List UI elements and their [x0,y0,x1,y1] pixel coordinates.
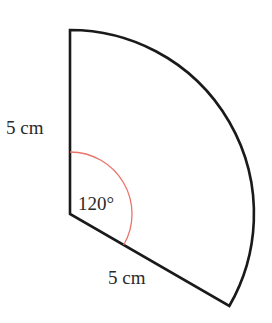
angle-label: 120° [78,193,114,214]
sector-diagram: 5 cm 120° 5 cm [0,0,272,323]
sector-outline [70,30,254,306]
bottom-radius-label: 5 cm [108,267,146,288]
left-radius-label: 5 cm [6,117,44,138]
